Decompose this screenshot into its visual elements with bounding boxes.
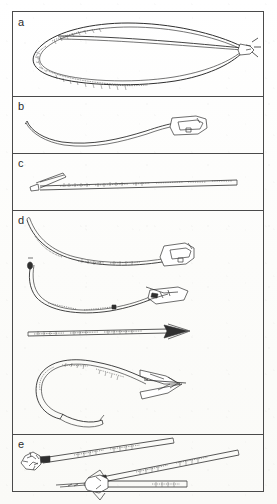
plate-frame <box>12 11 264 492</box>
divider-b-c <box>13 153 263 154</box>
divider-d-e <box>13 434 263 435</box>
panel-label-d: d <box>18 215 24 226</box>
panel-label-c: c <box>18 158 24 169</box>
panel-label-a: a <box>18 17 24 28</box>
figure-plate: a b c d e <box>0 0 277 504</box>
panel-label-e: e <box>18 439 24 450</box>
divider-c-d <box>13 210 263 211</box>
divider-a-b <box>13 96 263 97</box>
panel-label-b: b <box>18 101 24 112</box>
